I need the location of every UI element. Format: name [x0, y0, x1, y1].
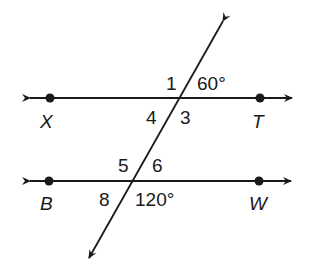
label-w: W: [249, 193, 269, 214]
angle-60: 60°: [197, 73, 226, 94]
transversal: [89, 21, 223, 258]
angle-1: 1: [166, 73, 177, 94]
angle-120: 120°: [135, 189, 174, 210]
point-x-dot: [46, 94, 55, 103]
label-b: B: [40, 193, 53, 214]
angle-4: 4: [146, 107, 157, 128]
angle-8: 8: [99, 189, 110, 210]
label-t: T: [252, 111, 265, 132]
angle-6: 6: [152, 155, 163, 176]
geometry-diagram: X T B W 1 60° 4 3 5 6 8 120°: [0, 0, 311, 273]
angle-3: 3: [180, 107, 191, 128]
point-w-dot: [255, 177, 264, 186]
diagram-canvas: X T B W 1 60° 4 3 5 6 8 120°: [0, 0, 311, 273]
angle-5: 5: [118, 155, 129, 176]
point-b-dot: [45, 177, 54, 186]
point-t-dot: [256, 94, 265, 103]
label-x: X: [39, 111, 54, 132]
